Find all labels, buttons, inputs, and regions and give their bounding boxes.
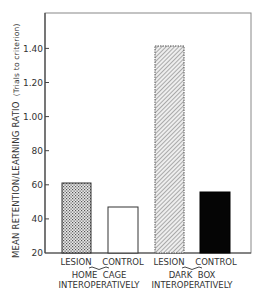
svg-text:60: 60 — [32, 180, 44, 190]
svg-text:LESION: LESION — [153, 257, 184, 267]
svg-text:1.00: 1.00 — [23, 112, 43, 122]
svg-text:DARK BOX: DARK BOX — [169, 270, 216, 280]
x-category-labels: LESION CONTROL LESION CONTROL — [60, 257, 237, 267]
svg-text:LESION: LESION — [60, 257, 91, 267]
y-axis-title: MEAN RETENTION/LEARNING RATIO(Trials to … — [11, 23, 21, 258]
svg-text:HOME CAGE: HOME CAGE — [72, 270, 127, 280]
bar-chart: 20 40 60 80 1.00 1.20 1.40 MEAN RETENTIO… — [0, 0, 264, 300]
bar-dark-box-control — [200, 192, 230, 253]
svg-text:1.40: 1.40 — [23, 44, 43, 54]
y-tick-labels: 20 40 60 80 1.00 1.20 1.40 — [23, 44, 43, 258]
svg-text:CONTROL: CONTROL — [195, 257, 237, 267]
svg-text:INTEROPERATIVELY: INTEROPERATIVELY — [59, 280, 141, 290]
bar-home-cage-control — [108, 207, 138, 253]
svg-text:20: 20 — [32, 248, 44, 258]
svg-text:CONTROL: CONTROL — [102, 257, 144, 267]
x-group-labels: HOME CAGE INTEROPERATIVELY DARK BOX INTE… — [59, 270, 234, 290]
svg-text:INTEROPERATIVELY: INTEROPERATIVELY — [152, 280, 234, 290]
bar-dark-box-lesion — [155, 46, 184, 253]
svg-text:40: 40 — [32, 214, 44, 224]
svg-text:80: 80 — [32, 146, 44, 156]
svg-text:1.20: 1.20 — [23, 78, 43, 88]
bar-home-cage-lesion — [62, 183, 91, 253]
